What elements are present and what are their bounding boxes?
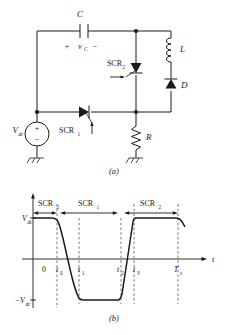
caption-b: (b) — [109, 313, 119, 323]
x-tick-label-t3: t — [133, 265, 136, 274]
interval-label-scr2-second: SCR — [140, 199, 156, 208]
chart-axes — [22, 193, 207, 308]
figure-container: C + v C − L D SCR 2 — [0, 0, 229, 335]
y-label-neg-vdc: −V — [15, 296, 26, 305]
x-tick-label-t1: t — [78, 265, 81, 274]
source-subscript: dc — [19, 131, 25, 137]
inductor-label: L — [179, 44, 185, 54]
scr1-subscript: 1 — [78, 131, 81, 137]
scr2-gate-arrow-icon — [110, 75, 125, 78]
y-label-vdc-subscript: dc — [28, 219, 34, 225]
scr1-gate-arrow-icon — [90, 122, 93, 135]
node-dot-left — [35, 110, 39, 114]
x-tick-sub-t2: 2 — [121, 270, 124, 276]
capacitor-voltage-subscript: C — [84, 46, 88, 52]
node-dot-top — [134, 29, 138, 33]
x-axis-label: t — [212, 255, 215, 264]
source-plus-sign: + — [35, 124, 40, 133]
x-axis-arrow-icon — [202, 257, 208, 261]
scr2-label: SCR — [107, 59, 123, 68]
scr2-subscript: 2 — [123, 64, 126, 70]
interval-label-scr1: SCR — [78, 199, 94, 208]
interval-sub-scr2-second: 2 — [159, 204, 162, 210]
inductor-icon — [167, 38, 172, 62]
interval-sub-scr1: 1 — [97, 204, 100, 210]
resistor-label: R — [145, 132, 152, 142]
y-axis-arrow-icon — [31, 193, 35, 199]
x-tick-sub-t1: 1 — [82, 270, 85, 276]
x-tick-sub-Ts: s — [180, 270, 182, 276]
thyristor-scr1-icon — [79, 106, 92, 124]
ground-icon-source — [27, 158, 44, 163]
circuit-schematic: C + v C − L D SCR 2 — [0, 0, 229, 180]
x-tick-label-0: 0 — [42, 265, 46, 274]
diode-label: D — [180, 80, 188, 90]
interval-arrows — [33, 211, 178, 214]
ground-icon-resistor — [126, 158, 143, 163]
resistor-icon — [132, 126, 141, 150]
x-tick-label-t2: t — [117, 265, 120, 274]
x-tick-sub-t0: 0 — [60, 270, 63, 276]
capacitor-voltage-label: v — [78, 42, 82, 51]
waveform-chart: V dc −V dc SCR 2 — [0, 180, 229, 335]
capacitor-minus-sign: − — [93, 42, 98, 51]
thyristor-scr2-icon — [126, 63, 143, 77]
interval-label-scr2-first: SCR — [38, 199, 54, 208]
x-tick-label-Ts: T — [174, 265, 179, 274]
x-tick-label-t0: t — [56, 265, 59, 274]
node-dot-middle — [134, 110, 138, 114]
y-label-neg-vdc-subscript: dc — [26, 301, 32, 307]
scr1-label: SCR — [59, 126, 75, 135]
chart-guidelines — [57, 204, 178, 308]
interval-sub-scr2-first: 2 — [57, 204, 60, 210]
x-tick-sub-t3: 3 — [137, 270, 140, 276]
capacitor-plus-sign: + — [65, 42, 70, 51]
capacitor-icon — [80, 24, 88, 38]
caption-a: (a) — [109, 166, 119, 176]
diode-icon — [165, 79, 178, 89]
source-minus-sign: − — [35, 135, 40, 144]
capacitor-label: C — [77, 9, 84, 19]
voltage-source-icon: + − — [25, 122, 49, 146]
